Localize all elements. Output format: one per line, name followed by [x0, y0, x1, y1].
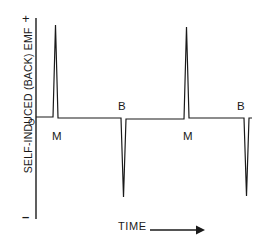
plot-canvas: [0, 0, 264, 242]
y-axis-label: SELF-INDUCED (BACK) EMF: [23, 10, 34, 190]
annotation-break-2: B: [237, 101, 245, 113]
annotation-make-2: M: [183, 131, 193, 143]
emf-trace: [36, 25, 252, 197]
x-axis-label-group: TIME: [118, 221, 147, 232]
annotation-break-1: B: [118, 101, 126, 113]
time-arrow-icon: [150, 226, 205, 235]
x-axis-label: TIME: [118, 221, 147, 232]
y-axis-negative-marker: –: [22, 210, 29, 223]
annotation-make-1: M: [52, 131, 62, 143]
emf-time-chart: + – O SELF-INDUCED (BACK) EMF TIME M B M…: [0, 0, 264, 242]
